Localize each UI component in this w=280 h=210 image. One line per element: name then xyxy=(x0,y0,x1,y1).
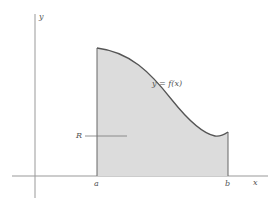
curve-label: y = f(x) xyxy=(152,80,182,88)
area-under-curve-diagram xyxy=(0,0,280,210)
a-label: a xyxy=(94,180,99,188)
x-axis-label: x xyxy=(253,179,258,187)
region-label: R xyxy=(76,132,82,140)
b-label: b xyxy=(225,180,230,188)
region-r-shading xyxy=(97,48,228,176)
y-axis-label: y xyxy=(39,13,44,21)
